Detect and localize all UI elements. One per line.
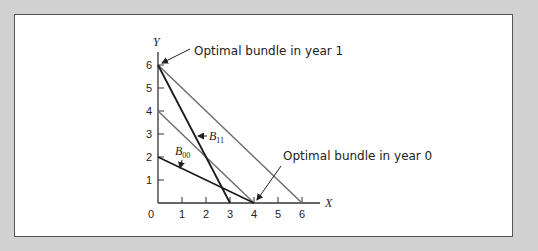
annotation-year-1-text: Optimal bundle in year 1 (194, 44, 343, 58)
b11-label: B11 (198, 129, 224, 145)
x-tick-2: 2 (203, 208, 209, 220)
origin-label: 0 (148, 208, 154, 220)
svg-text:B00: B00 (175, 144, 190, 160)
x-tick-4: 4 (251, 208, 257, 220)
x-tick-3: 3 (227, 208, 233, 220)
budget-lines (158, 65, 302, 203)
budget-line-6-6 (158, 65, 302, 203)
y-tick-5: 5 (146, 82, 152, 94)
svg-text:B11: B11 (209, 129, 224, 145)
b00-arrow (180, 160, 182, 168)
budget-line-b11 (158, 65, 230, 203)
annotation-year-1: Optimal bundle in year 1 (162, 44, 343, 63)
y-tick-6: 6 (146, 59, 152, 71)
y-axis-title: Y (153, 35, 161, 49)
budget-line-b00 (158, 157, 254, 203)
x-tick-1: 1 (179, 208, 185, 220)
y-tick-1: 1 (146, 174, 152, 186)
annotation-year-1-arrow (162, 49, 190, 63)
y-tick-3: 3 (146, 128, 152, 140)
budget-lines-chart: Y X 0 1 2 3 4 5 6 1 2 3 4 5 (0, 0, 538, 251)
annotation-year-0: Optimal bundle in year 0 (257, 149, 432, 200)
x-tick-5: 5 (275, 208, 281, 220)
x-axis-title: X (324, 196, 333, 210)
annotation-year-0-text: Optimal bundle in year 0 (283, 149, 432, 163)
y-tick-4: 4 (146, 105, 152, 117)
y-tick-2: 2 (146, 151, 152, 163)
b00-label: B00 (175, 144, 190, 168)
axes: Y X 0 1 2 3 4 5 6 1 2 3 4 5 (146, 35, 333, 220)
y-ticks (158, 65, 164, 180)
x-tick-6: 6 (299, 208, 305, 220)
